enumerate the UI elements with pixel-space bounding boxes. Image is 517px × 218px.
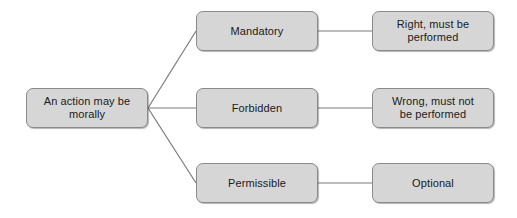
node-wrong-performed: Wrong, must not be performed xyxy=(372,88,494,128)
node-mandatory: Mandatory xyxy=(196,11,318,51)
node-permissible: Permissible xyxy=(196,163,318,203)
node-optional: Optional xyxy=(372,163,494,203)
node-forbidden-label: Forbidden xyxy=(228,102,286,115)
node-right-performed-label: Right, must be performed xyxy=(393,18,473,44)
node-mandatory-label: Mandatory xyxy=(227,25,288,38)
node-wrong-performed-label: Wrong, must not be performed xyxy=(388,95,478,121)
node-right-performed: Right, must be performed xyxy=(372,11,494,51)
node-optional-label: Optional xyxy=(408,177,458,190)
node-root-label: An action may be morally xyxy=(40,95,135,121)
diagram-canvas: An action may be morally Mandatory Forbi… xyxy=(0,0,517,218)
node-permissible-label: Permissible xyxy=(224,177,290,190)
connector-root-to-mandatory xyxy=(148,31,196,108)
connector-root-to-permissible xyxy=(148,108,196,183)
node-forbidden: Forbidden xyxy=(196,88,318,128)
node-root: An action may be morally xyxy=(26,88,148,128)
